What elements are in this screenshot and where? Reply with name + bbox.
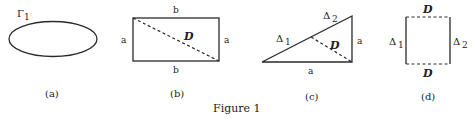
panel-d: D D Δ 1 Δ 2 (d) [389,3,468,102]
panel-c: Δ 1 Δ 2 a a D (c) [262,10,363,102]
ellipse-gamma1 [9,22,97,57]
sq-bottom-label: D [422,67,433,80]
figure-1: Γ 1 (a) b b a a D (b) Δ 1 Δ 2 a a D (c) … [0,0,474,119]
gamma-subscript: 1 [24,12,30,22]
sq-right-delta: Δ [453,36,460,47]
delta2-subscript: 2 [332,14,338,24]
figure-caption: Figure 1 [213,102,261,115]
panel-b-label: (b) [170,88,184,99]
rectangle [133,18,219,61]
rect-diagonal-label: D [183,30,194,43]
tri-right-label: a [357,36,363,46]
delta1-subscript: 1 [285,37,291,47]
delta2-label: Δ [323,10,330,21]
tri-bottom-label: a [308,66,314,76]
rect-bottom-label: b [173,65,179,75]
rect-right-label: a [224,35,230,45]
diagonal-dashed [133,18,219,61]
rect-left-label: a [121,35,127,45]
panel-d-label: (d) [421,91,435,102]
panel-c-label: (c) [305,91,319,102]
sq-left-delta: Δ [389,36,396,47]
panel-a: Γ 1 (a) [9,8,97,99]
tri-dashed-label: D [329,39,340,52]
sq-top-label: D [422,3,433,16]
panel-b: b b a a D (b) [121,5,230,99]
rect-top-label: b [173,5,179,15]
sq-left-subscript: 1 [398,40,404,50]
panel-a-label: (a) [45,88,59,99]
delta1-label: Δ [276,33,283,44]
gamma-label: Γ [17,8,24,19]
sq-right-subscript: 2 [462,40,468,50]
